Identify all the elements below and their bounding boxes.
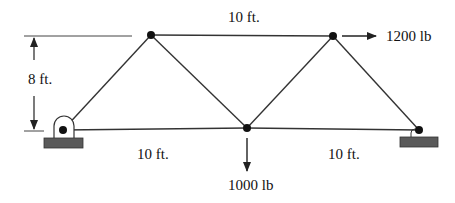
member-ce — [247, 128, 419, 130]
truss-nodes — [59, 31, 423, 134]
node-b — [147, 31, 155, 39]
member-ac — [63, 128, 247, 130]
horizontal-load-label: 1200 lb — [386, 29, 431, 44]
bottom-left-span-label: 10 ft. — [137, 147, 169, 162]
truss-members — [63, 35, 419, 130]
bottom-right-span-label: 10 ft. — [328, 147, 360, 162]
height-label: 8 ft. — [28, 70, 52, 89]
member-ab — [63, 35, 151, 130]
member-bd — [151, 35, 333, 36]
member-bc — [151, 35, 247, 128]
node-a — [59, 126, 67, 134]
top-span-label: 10 ft. — [228, 10, 260, 25]
node-e — [415, 126, 423, 134]
node-c — [243, 124, 251, 132]
vertical-load-label: 1000 lb — [228, 178, 273, 193]
member-de — [333, 36, 419, 130]
member-cd — [247, 36, 333, 128]
node-d — [329, 32, 337, 40]
